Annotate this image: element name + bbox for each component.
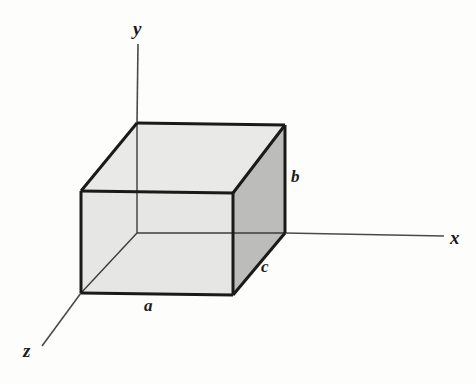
box-edge-top-back [137, 123, 285, 125]
axis-label-z: z [23, 341, 30, 360]
axis-z-line [42, 293, 81, 346]
box-edge-top-front [81, 191, 233, 193]
axis-label-x: x [450, 228, 460, 247]
edge-label-b: b [291, 168, 300, 185]
figure-canvas: y x z a b c [0, 0, 476, 384]
edge-label-a: a [144, 297, 153, 314]
axis-x-line [285, 233, 444, 236]
axis-label-y: y [133, 19, 141, 38]
box-face-front [81, 191, 233, 295]
box-edge-bottom-front [81, 293, 233, 295]
edge-label-c: c [261, 258, 269, 275]
axis-y-line [137, 44, 138, 123]
box-diagram-svg [0, 0, 476, 384]
